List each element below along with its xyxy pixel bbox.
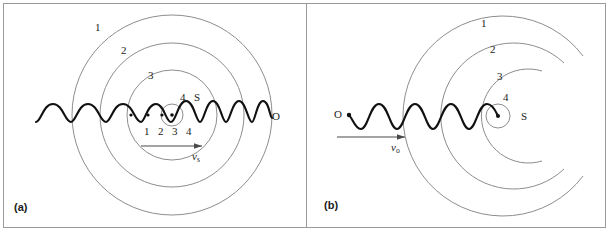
wavefront-label-4-a: 4: [180, 92, 186, 103]
source-label-a: S: [194, 92, 200, 103]
wave-trace-a: [36, 101, 272, 122]
velocity-arrow-a: [141, 143, 202, 149]
panel-a-graphics: [36, 15, 272, 215]
position-label-2-a: 2: [158, 126, 164, 137]
panel-b-graphics: [337, 16, 583, 216]
velocity-arrow-b: [337, 134, 405, 140]
wave-trace-b: [348, 104, 498, 129]
emission-point-dot-3-a: [160, 113, 163, 116]
wavefront-label-1-a: 1: [95, 22, 101, 33]
emission-point-dot-1-a: [129, 113, 132, 116]
position-label-4-a: 4: [186, 126, 192, 137]
observer-velocity-label-b: vo: [391, 141, 400, 153]
source-label-b: S: [521, 110, 527, 122]
wavefront-label-1-b: 1: [481, 18, 487, 29]
observer-dot-b: [347, 113, 351, 117]
wavefront-label-4-b: 4: [503, 92, 509, 103]
wavefront-arc-3-b: [481, 69, 542, 163]
velocity-subscript-a: s: [197, 155, 200, 164]
emission-point-dot-2-a: [146, 113, 149, 116]
source-velocity-label-a: vs: [192, 150, 200, 162]
wavefront-label-3-b: 3: [497, 71, 503, 82]
wavefront-label-3-a: 3: [148, 70, 154, 81]
panel-b-label: (b): [324, 199, 338, 211]
wavefront-arc-2-b: [441, 43, 564, 189]
panel-a-label: (a): [14, 201, 27, 213]
doppler-effect-figure: (a) 1 2 3 4 S 1 2 3 4 O vs (b) 1 2 3 4 O…: [0, 0, 611, 233]
position-label-1-a: 1: [144, 126, 150, 137]
observer-label-b: O: [334, 108, 342, 120]
source-dot-a: [170, 113, 174, 117]
wavefront-label-2-b: 2: [490, 44, 496, 55]
velocity-subscript-b: o: [396, 146, 400, 155]
diagram-canvas: [0, 0, 611, 233]
observer-label-a: O: [272, 110, 280, 122]
source-dot-b: [496, 114, 500, 118]
wavefront-label-2-a: 2: [121, 45, 127, 56]
position-label-3-a: 3: [172, 126, 178, 137]
